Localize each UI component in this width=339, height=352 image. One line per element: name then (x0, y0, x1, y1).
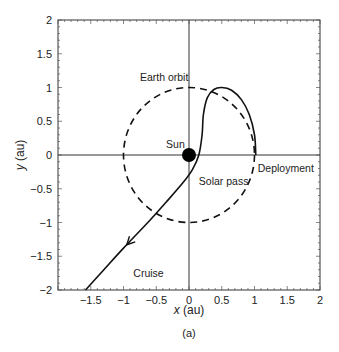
x-tick-label: −1.5 (80, 294, 102, 306)
x-axis-label: x (au) (173, 303, 205, 317)
x-tick-label: 1.5 (280, 294, 295, 306)
chart-figure: −1.5−1−0.500.511.52−2−1.5−1−0.500.511.52… (0, 0, 339, 352)
y-tick-label: 0.5 (37, 115, 52, 127)
y-tick-label: −2 (39, 284, 52, 296)
y-tick-label: 0 (46, 149, 52, 161)
annotation-earth-orbit: Earth orbit (140, 71, 189, 83)
y-tick-label: 1 (46, 82, 52, 94)
x-tick-label: −0.5 (145, 294, 167, 306)
x-tick-label: −1 (117, 294, 130, 306)
annotation-sun: Sun (166, 138, 185, 150)
y-axis-label: y (au) (13, 140, 27, 172)
figure-caption: (a) (182, 327, 195, 339)
x-tick-label: 2 (317, 294, 323, 306)
x-tick-label: 0.5 (214, 294, 229, 306)
y-tick-label: −0.5 (30, 183, 52, 195)
y-tick-label: −1.5 (30, 250, 52, 262)
plot-area: −1.5−1−0.500.511.52−2−1.5−1−0.500.511.52… (30, 14, 323, 306)
trajectory-line (86, 87, 256, 290)
annotation-cruise: Cruise (133, 267, 164, 279)
y-tick-label: 1.5 (37, 48, 52, 60)
annotation-deployment: Deployment (258, 162, 314, 174)
y-tick-label: 2 (46, 14, 52, 26)
x-tick-label: 1 (251, 294, 257, 306)
annotation-solar-pass: Solar pass (199, 175, 249, 187)
y-tick-label: −1 (39, 217, 52, 229)
